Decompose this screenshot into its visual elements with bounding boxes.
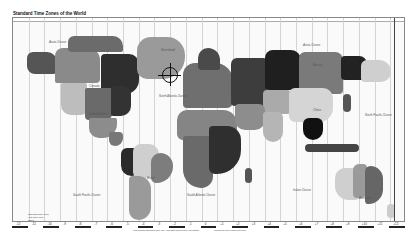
- footnote: Compiled from official sources: [214, 229, 246, 232]
- land-india: [263, 112, 283, 142]
- land-russia-west: [231, 58, 267, 106]
- zone-bar-segment: [75, 226, 91, 228]
- zone-bar-segment: [295, 226, 311, 228]
- map-label: Greenland: [161, 48, 175, 52]
- time-zone-meridian: [327, 18, 328, 221]
- zone-offset-label: +1: [220, 222, 223, 226]
- land-africa-east: [209, 126, 241, 174]
- zone-offset-label: +9: [346, 222, 349, 226]
- map-label: Arctic Ocean: [49, 40, 66, 44]
- zone-offset-label: +7: [315, 222, 318, 226]
- land-indonesia: [305, 144, 359, 152]
- greenwich-crosshair-icon: [162, 67, 178, 83]
- world-map: Arctic OceanArctic OceanNorth Atlantic O…: [12, 17, 405, 222]
- land-china: [289, 88, 333, 122]
- international-date-line: [394, 18, 395, 222]
- bottom-zone-bar: -12-11-10-9-8-7-6-5-4-3-2-10+1+2+3+4+5+6…: [12, 222, 405, 227]
- land-madagascar: [245, 168, 252, 183]
- land-alaska: [27, 52, 57, 74]
- map-label: Indian Ocean: [293, 188, 311, 192]
- land-chukotka: [361, 60, 391, 82]
- map-label: North Atlantic Ocean: [159, 94, 187, 98]
- land-central-america: [109, 132, 123, 146]
- time-zone-meridian: [123, 18, 124, 221]
- zone-offset-label: -3: [157, 222, 160, 226]
- land-central-asia: [263, 90, 291, 114]
- zone-bar-segment: [43, 226, 59, 228]
- zone-offset-label: +11: [378, 222, 383, 226]
- time-zone-top-strip: [13, 18, 404, 22]
- time-zone-meridian: [390, 18, 391, 221]
- map-label: South Pacific Ocean: [73, 193, 100, 197]
- zone-offset-label: +3: [252, 222, 255, 226]
- zone-bar-segment: [138, 226, 154, 228]
- land-canada-west: [55, 48, 100, 83]
- map-label: Arctic Ocean: [303, 43, 320, 47]
- map-label: South Atlantic Ocean: [187, 193, 215, 197]
- zone-bar-segment: [169, 226, 185, 228]
- map-label: Russia: [313, 63, 322, 67]
- time-zone-meridian: [29, 18, 30, 221]
- zone-bar-segment: [106, 226, 122, 228]
- zone-offset-label: +5: [283, 222, 286, 226]
- zone-bar-segment: [326, 226, 342, 228]
- land-russia-central: [265, 50, 301, 90]
- zone-offset-label: -1: [189, 222, 192, 226]
- map-legend: Standard time zone Half-hour zone Other: [28, 213, 49, 222]
- map-label: Australia: [359, 196, 371, 200]
- time-zone-meridian: [44, 18, 45, 221]
- land-scandinavia: [198, 48, 220, 70]
- map-label: Brazil: [147, 176, 155, 180]
- land-south-america-south: [129, 176, 151, 220]
- map-label: China: [313, 108, 321, 112]
- map-title: Standard Time Zones of the World: [13, 11, 86, 16]
- land-us-east: [111, 86, 131, 116]
- zone-offset-label: -5: [126, 222, 129, 226]
- zone-bar-segment: [232, 226, 248, 228]
- land-middle-east: [235, 104, 265, 130]
- land-southeast-asia: [303, 118, 323, 140]
- zone-bar-segment: [201, 226, 217, 228]
- zone-bar-segment: [358, 226, 374, 228]
- zone-offset-label: -7: [95, 222, 98, 226]
- zone-offset-label: -9: [63, 222, 66, 226]
- zone-offset-label: -11: [32, 222, 36, 226]
- map-label: North Pacific Ocean: [365, 113, 392, 117]
- land-japan: [343, 94, 351, 112]
- zone-bar-segment: [264, 226, 280, 228]
- footnote: Map shows standard time only; daylight s…: [133, 229, 199, 232]
- land-canada-north: [68, 36, 123, 52]
- zone-bar-segment: [12, 226, 28, 228]
- land-us-west: [61, 83, 87, 115]
- zone-bar-segment: [389, 226, 405, 228]
- map-label: Canada: [89, 84, 100, 88]
- map-label: United States: [89, 112, 107, 116]
